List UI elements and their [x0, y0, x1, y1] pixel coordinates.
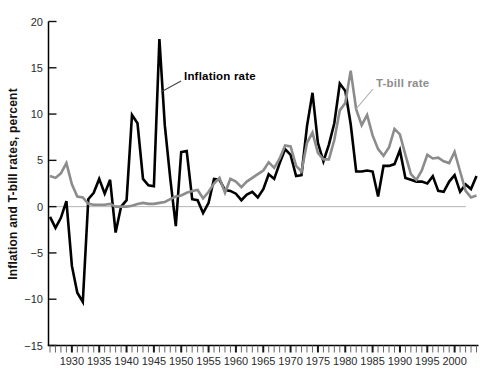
- y-tick-label-20: 20: [31, 16, 43, 28]
- y-tick-label-10: 10: [31, 108, 43, 120]
- tbill-leader-line: [356, 89, 373, 109]
- x-tick-label-1935: 1935: [87, 355, 111, 367]
- x-tick-label-1995: 1995: [415, 355, 439, 367]
- x-tick-label-1940: 1940: [114, 355, 138, 367]
- x-tick-label-1960: 1960: [224, 355, 248, 367]
- y-tick-label-−5: −5: [30, 247, 43, 259]
- x-tick-label-1970: 1970: [278, 355, 302, 367]
- x-tick-label-2000: 2000: [442, 355, 466, 367]
- y-tick-label-−15: −15: [24, 340, 43, 352]
- y-tick-label-5: 5: [37, 154, 43, 166]
- tbill-rate-label: T-bill rate: [376, 77, 429, 89]
- x-tick-label-1990: 1990: [388, 355, 412, 367]
- inflation-rate-label: Inflation rate: [184, 70, 256, 82]
- x-tick-label-1985: 1985: [360, 355, 384, 367]
- x-tick-label-1980: 1980: [333, 355, 357, 367]
- inflation-leader-line: [161, 81, 181, 92]
- x-tick-label-1955: 1955: [196, 355, 220, 367]
- y-tick-label-−10: −10: [24, 293, 43, 305]
- x-tick-label-1945: 1945: [142, 355, 166, 367]
- y-tick-label-15: 15: [31, 62, 43, 74]
- x-tick-label-1930: 1930: [60, 355, 84, 367]
- chart-figure: 20151050−5−10−15193019351940194519501955…: [0, 0, 490, 381]
- x-tick-label-1975: 1975: [306, 355, 330, 367]
- y-axis-title: Inflation and T-bill rates, percent: [6, 19, 22, 349]
- x-tick-label-1965: 1965: [251, 355, 275, 367]
- y-tick-label-0: 0: [37, 201, 43, 213]
- x-tick-label-1950: 1950: [169, 355, 193, 367]
- line-chart: 20151050−5−10−15193019351940194519501955…: [0, 0, 490, 381]
